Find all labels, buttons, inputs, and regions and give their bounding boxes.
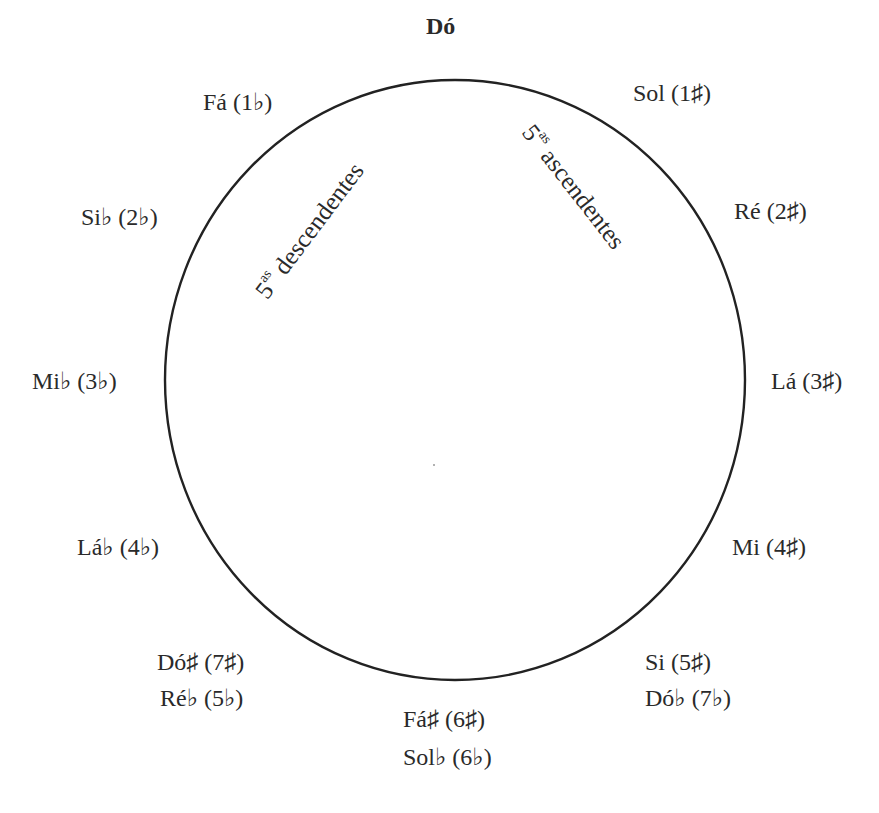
key-label-solb: Sol♭ (6♭): [403, 742, 492, 772]
circle-of-fifths-ring: [165, 80, 745, 680]
key-label-sol: Sol (1♯): [633, 78, 711, 108]
key-label-fas: Fá♯ (6♯): [403, 704, 485, 734]
key-label-la: Lá (3♯): [771, 366, 842, 396]
key-label-mi: Mi (4♯): [732, 532, 806, 562]
key-label-sib: Si♭ (2♭): [81, 202, 158, 232]
key-label-fa: Fá (1♭): [203, 87, 272, 117]
key-label-dob: Dó♭ (7♭): [645, 683, 731, 713]
key-label-re: Ré (2♯): [734, 196, 807, 226]
key-label-mib: Mi♭ (3♭): [32, 366, 117, 396]
key-label-do: Dó: [426, 11, 455, 41]
key-label-reb: Ré♭ (5♭): [160, 683, 243, 713]
key-label-dos: Dó♯ (7♯): [157, 647, 244, 677]
circle-of-fifths-diagram: [0, 0, 879, 813]
key-label-si: Si (5♯): [645, 647, 711, 677]
key-label-lab: Lá♭ (4♭): [77, 532, 159, 562]
center-dot: [433, 464, 435, 466]
